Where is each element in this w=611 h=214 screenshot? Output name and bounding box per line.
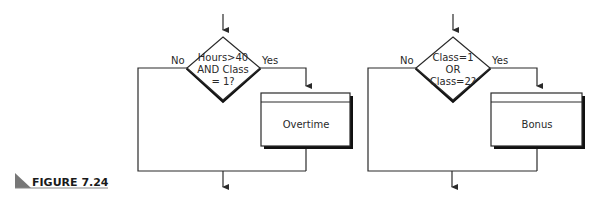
flowchart-diagram: Hours>40 AND Class = 1? No Yes Overtime … (0, 0, 611, 214)
decision-text-line-2: OR (446, 64, 461, 75)
figure-triangle-icon (15, 173, 31, 188)
no-label: No (400, 55, 414, 66)
flowchart-1: Hours>40 AND Class = 1? No Yes Overtime (138, 14, 353, 187)
decision-text-line-3: = 1? (211, 76, 234, 87)
process-label: Bonus (522, 119, 553, 130)
decision-text-line-2: AND Class (197, 64, 249, 75)
yes-label: Yes (491, 55, 508, 66)
figure-caption: FIGURE 7.24 (15, 173, 109, 189)
process-label: Overtime (283, 119, 330, 130)
yes-branch-arrow (490, 68, 537, 86)
yes-label: Yes (261, 55, 278, 66)
yes-branch-arrow (260, 68, 306, 86)
figure-label: FIGURE 7.24 (32, 176, 109, 189)
no-label: No (171, 55, 185, 66)
flowchart-2: Class=1 OR Class=2? No Yes Bonus (368, 14, 585, 187)
decision-text-line-1: Class=1 (432, 52, 473, 63)
decision-text-line-1: Hours>40 (198, 52, 248, 63)
decision-text-line-3: Class=2? (430, 76, 476, 87)
